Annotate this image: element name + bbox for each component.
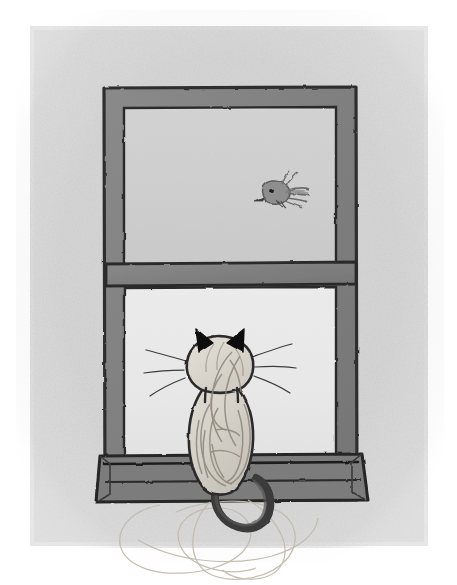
upper-pane	[124, 107, 336, 265]
illustration-svg	[0, 0, 457, 585]
artwork-canvas: A sketch of a cat seen from behind sitti…	[0, 0, 457, 585]
window-crossbar	[106, 262, 356, 286]
bird-eye	[269, 188, 273, 192]
